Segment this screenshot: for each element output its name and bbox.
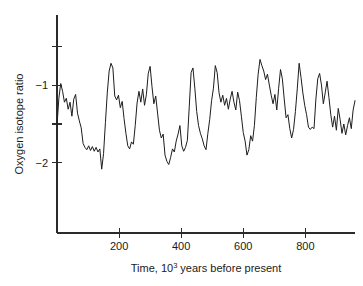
x-tick-label: 200 (110, 240, 128, 252)
x-tick-label: 800 (296, 240, 314, 252)
y-tick-label: −2 (35, 157, 48, 169)
data-series-line (57, 59, 355, 169)
x-tick-label: 600 (234, 240, 252, 252)
chart-canvas: −1−2 200400600800 Oxygen isotope ratio T… (0, 0, 363, 286)
x-axis-tick-labels: 200400600800 (110, 240, 315, 252)
y-axis-tick-labels: −1−2 (35, 79, 48, 169)
y-tick-label: −1 (35, 79, 48, 91)
x-axis-title: Time, 103 years before present (131, 261, 282, 274)
oxygen-isotope-figure: −1−2 200400600800 Oxygen isotope ratio T… (0, 0, 363, 286)
x-axis-title-suffix: years before present (177, 262, 281, 274)
y-axis-title: Oxygen isotope ratio (13, 74, 25, 175)
x-axis-title-prefix: Time, 10 (131, 262, 173, 274)
x-tick-label: 400 (172, 240, 190, 252)
